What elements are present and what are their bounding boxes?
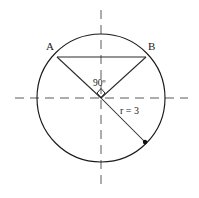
point-label-a: A <box>46 41 54 52</box>
radius-endpoint-dot <box>143 140 147 144</box>
geometry-figure: A B 90º r = 3 <box>0 0 199 198</box>
radius-label: r = 3 <box>120 106 139 116</box>
point-label-b: B <box>148 41 155 52</box>
radius-to-b <box>101 57 146 98</box>
figure-canvas <box>0 0 199 198</box>
central-angle-label: 90º <box>93 79 105 89</box>
